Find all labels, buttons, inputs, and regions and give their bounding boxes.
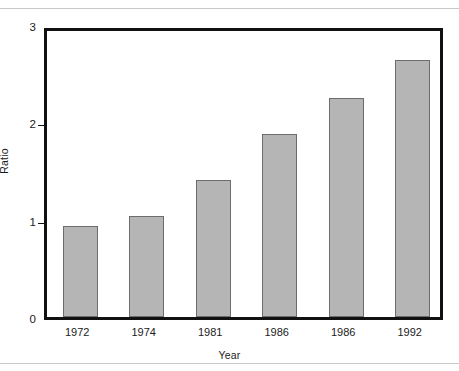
page-rule-bottom	[0, 363, 459, 364]
x-axis-tick-label: 1986	[310, 327, 377, 338]
y-axis-tick-label: 1	[0, 217, 36, 229]
x-axis-tick-label: 1981	[177, 327, 244, 338]
y-axis-tick-label: 3	[0, 22, 36, 34]
y-axis-tick-label: 0	[0, 314, 36, 326]
bar	[262, 134, 297, 317]
x-axis-tick-label: 1986	[244, 327, 311, 338]
bar	[196, 180, 231, 317]
bar	[395, 60, 430, 317]
bars-layer	[47, 31, 440, 317]
bar	[329, 98, 364, 317]
y-axis-title: Ratio	[0, 148, 10, 174]
plot-frame	[44, 28, 443, 320]
bar	[129, 216, 164, 317]
page-rule-top	[0, 8, 459, 9]
x-axis-tick-label: 1972	[44, 327, 111, 338]
y-axis-tick-label: 2	[0, 119, 36, 131]
x-axis-title: Year	[0, 349, 459, 361]
x-axis-tick-label: 1992	[377, 327, 444, 338]
x-axis-tick-label: 1974	[111, 327, 178, 338]
bar	[63, 226, 98, 317]
bar-chart-figure: 0123 Ratio 197219741981198619861992 Year	[0, 0, 459, 371]
